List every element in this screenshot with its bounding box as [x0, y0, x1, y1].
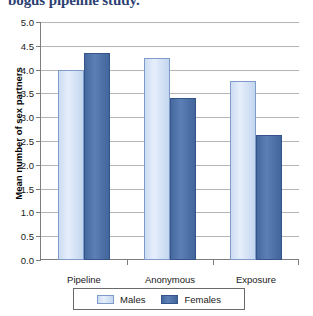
y-axis-tick-label: 5.0: [21, 17, 34, 28]
bar-exposure-males: [230, 81, 256, 260]
y-axis-tick-label: 1.5: [21, 184, 34, 195]
y-axis-tick-mark: [36, 260, 41, 261]
legend-label-males: Males: [120, 294, 145, 305]
y-axis-tick-label: 4.0: [21, 65, 34, 76]
y-axis-tick-mark: [36, 236, 41, 237]
bar-pipeline-males: [58, 70, 84, 260]
y-axis-tick-mark: [36, 165, 41, 166]
y-axis-tick-mark: [36, 22, 41, 23]
y-axis-tick-mark: [36, 212, 41, 213]
chart-legend: MalesFemales: [73, 288, 245, 310]
y-axis-tick-mark: [36, 117, 41, 118]
x-axis-tick-mark: [127, 260, 128, 265]
x-axis-label-anonymous: Anonymous: [145, 274, 195, 285]
bar-chart-figure: Mean number of sex partners 0.00.51.01.5…: [0, 11, 313, 307]
x-axis-label-exposure: Exposure: [236, 274, 276, 285]
y-axis-tick-label: 0.0: [21, 255, 34, 266]
y-axis-tick-label: 3.5: [21, 88, 34, 99]
figure-caption-text: bogus pipeline study.: [8, 0, 140, 9]
plot-area: 0.00.51.01.52.02.53.03.54.04.55.0Pipelin…: [41, 22, 299, 260]
y-axis-tick-label: 2.5: [21, 136, 34, 147]
legend-entry-females: Females: [161, 294, 220, 305]
x-axis-tick-mark: [298, 260, 299, 265]
gridline: [41, 46, 299, 47]
x-axis-tick-mark: [213, 260, 214, 265]
y-axis-tick-mark: [36, 93, 41, 94]
bar-anonymous-males: [144, 58, 170, 260]
y-axis-tick-label: 4.5: [21, 41, 34, 52]
y-axis-tick-mark: [36, 70, 41, 71]
figure-caption-strip: bogus pipeline study.: [0, 0, 313, 11]
legend-swatch-females: [161, 295, 178, 304]
bar-pipeline-females: [84, 53, 110, 260]
legend-swatch-males: [97, 295, 114, 304]
bar-anonymous-females: [170, 98, 196, 260]
y-axis-tick-label: 1.0: [21, 207, 34, 218]
gridline: [41, 22, 299, 23]
y-axis-tick-label: 0.5: [21, 231, 34, 242]
y-axis-tick-mark: [36, 189, 41, 190]
y-axis-tick-mark: [36, 46, 41, 47]
y-axis-tick-label: 3.0: [21, 112, 34, 123]
bar-exposure-females: [256, 135, 282, 260]
y-axis-tick-label: 2.0: [21, 160, 34, 171]
legend-label-females: Females: [184, 294, 220, 305]
plot-inner: 0.00.51.01.52.02.53.03.54.04.55.0Pipelin…: [41, 22, 299, 260]
legend-entry-males: Males: [97, 294, 145, 305]
x-axis-label-pipeline: Pipeline: [67, 274, 101, 285]
y-axis-tick-mark: [36, 141, 41, 142]
